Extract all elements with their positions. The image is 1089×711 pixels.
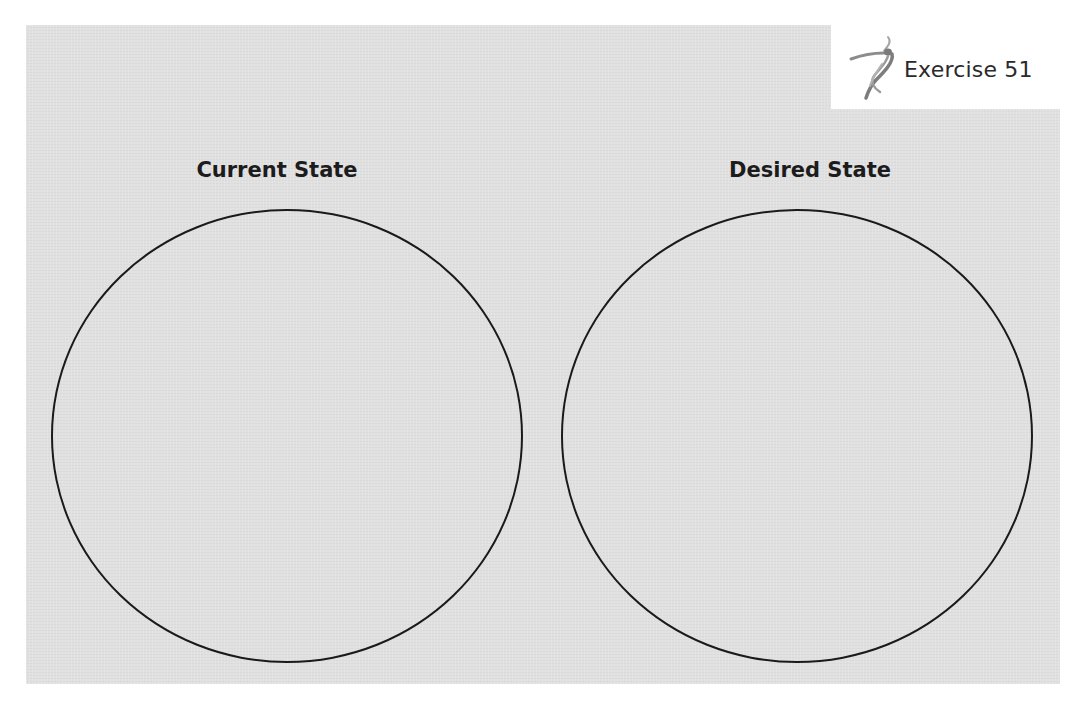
exercise-number-label: Exercise 51 bbox=[904, 57, 1033, 82]
exercise-page: Exercise 51 Current State Desired State bbox=[0, 0, 1089, 711]
current-state-heading: Current State bbox=[196, 158, 357, 182]
current-state-circle[interactable] bbox=[51, 209, 523, 663]
desired-state-heading: Desired State bbox=[729, 158, 891, 182]
dancer-figure-icon bbox=[848, 34, 900, 102]
desired-state-circle[interactable] bbox=[561, 209, 1033, 663]
exercise-badge: Exercise 51 bbox=[848, 34, 1033, 102]
